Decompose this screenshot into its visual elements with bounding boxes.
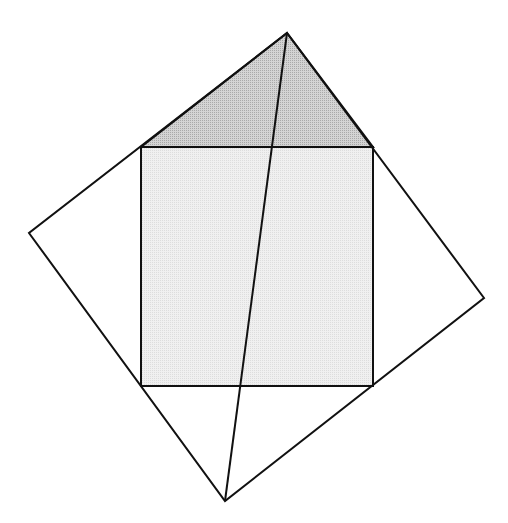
shaded-triangle — [141, 33, 373, 147]
geometry-diagram — [0, 0, 508, 523]
